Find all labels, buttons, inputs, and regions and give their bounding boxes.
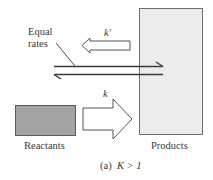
products-box <box>140 9 203 135</box>
equal-rates-label-line1: Equal <box>28 26 53 38</box>
reverse-rate-arrow-icon <box>82 38 130 53</box>
equal-rates-label: Equal rates <box>28 26 53 50</box>
caption-tag: (a) <box>100 160 112 171</box>
equal-rates-label-line2: rates <box>28 38 53 50</box>
caption-expression: K > 1 <box>117 160 142 171</box>
equal-rates-leader-line <box>56 43 75 66</box>
forward-rate-arrow-icon <box>83 99 132 139</box>
reactants-label: Reactants <box>24 140 65 152</box>
caption: (a) K > 1 <box>100 160 142 172</box>
reverse-rate-constant-label: k′ <box>104 27 111 39</box>
forward-rate-constant-label: k <box>103 88 108 100</box>
reactants-box <box>16 106 76 136</box>
products-label: Products <box>151 140 188 152</box>
